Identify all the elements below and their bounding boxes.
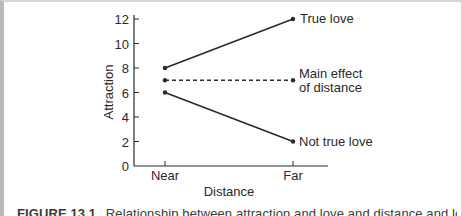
y-tick-8: 8 — [122, 61, 129, 76]
y-tick-6: 6 — [122, 86, 129, 101]
figure-caption: FIGURE 13.1 Relationship between attract… — [17, 206, 457, 216]
label-not-true-love: Not true love — [299, 134, 373, 149]
y-tick-12: 12 — [115, 12, 129, 27]
data-point — [291, 78, 295, 82]
data-point — [163, 78, 167, 82]
label-main-effect-line1: Main effect — [299, 66, 363, 81]
data-point — [163, 90, 167, 94]
data-point — [163, 66, 167, 70]
series-main-effect — [163, 78, 295, 82]
y-tick-labels: 0 2 4 6 8 10 12 — [115, 12, 129, 174]
y-tick-2: 2 — [122, 135, 129, 150]
y-axis-title: Attraction — [101, 65, 116, 120]
x-tick-near: Near — [151, 168, 180, 183]
line-chart: 0 2 4 6 8 10 12 Near Far Distance Attrac… — [0, 0, 462, 216]
x-ticks — [165, 161, 293, 166]
y-tick-0: 0 — [122, 159, 129, 174]
y-tick-10: 10 — [115, 37, 129, 52]
y-ticks — [134, 19, 139, 142]
series-true-love — [163, 17, 295, 70]
label-main-effect-line2: of distance — [299, 80, 362, 95]
x-tick-far: Far — [283, 168, 303, 183]
figure-number: FIGURE 13.1 — [17, 206, 96, 216]
data-point — [291, 139, 295, 143]
label-true-love: True love — [300, 11, 354, 26]
y-tick-4: 4 — [122, 110, 129, 125]
x-axis-title: Distance — [204, 184, 255, 199]
series-not-true-love — [163, 90, 295, 143]
figure-caption-text: Relationship between attraction and love… — [106, 206, 457, 216]
data-point — [291, 17, 295, 21]
